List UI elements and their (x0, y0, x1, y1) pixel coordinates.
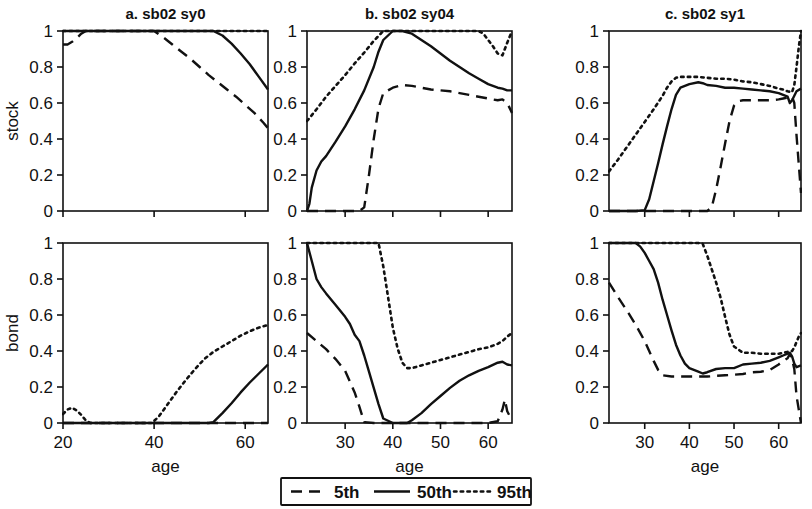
y-tick-label: 0.2 (29, 378, 53, 397)
x-tick-label: 60 (479, 433, 498, 452)
y-tick-label: 0.2 (273, 378, 297, 397)
multi-panel-line-chart: 00.20.40.60.81a. sb02 sy0stock00.20.40.6… (0, 0, 812, 509)
x-tick-label: 30 (635, 433, 654, 452)
y-tick-label: 0 (590, 202, 599, 221)
y-tick-label: 1 (590, 22, 599, 41)
y-tick-label: 0.6 (29, 94, 53, 113)
y-tick-label: 0.4 (29, 130, 53, 149)
y-tick-label: 1 (288, 234, 297, 253)
y-tick-label: 1 (590, 234, 599, 253)
x-tick-label: 40 (145, 433, 164, 452)
x-tick-label: 40 (680, 433, 699, 452)
y-tick-label: 0.8 (575, 58, 599, 77)
y-tick-label: 1 (44, 234, 53, 253)
y-tick-label: 0 (590, 414, 599, 433)
panel-title: a. sb02 sy0 (125, 5, 205, 22)
y-tick-label: 0.8 (273, 58, 297, 77)
x-tick-label: 60 (236, 433, 255, 452)
y-tick-label: 0.6 (273, 94, 297, 113)
y-tick-label: 0.8 (29, 270, 53, 289)
y-tick-label: 0.8 (575, 270, 599, 289)
y-tick-label: 0.6 (575, 306, 599, 325)
legend-label-50th: 50th (417, 483, 452, 502)
y-tick-label: 0.2 (29, 166, 53, 185)
x-tick-label: 50 (725, 433, 744, 452)
y-tick-label: 0.6 (575, 94, 599, 113)
y-axis-title: bond (3, 314, 22, 352)
figure-root: 00.20.40.60.81a. sb02 sy0stock00.20.40.6… (0, 0, 812, 509)
x-axis-title: age (691, 457, 719, 476)
y-tick-label: 0 (44, 202, 53, 221)
y-tick-label: 0.2 (575, 166, 599, 185)
x-axis-title: age (395, 457, 423, 476)
y-tick-label: 0.4 (273, 130, 297, 149)
y-tick-label: 0.4 (29, 342, 53, 361)
x-tick-label: 40 (383, 433, 402, 452)
y-axis-title: stock (3, 101, 22, 141)
y-tick-label: 0.2 (575, 378, 599, 397)
panel-title: b. sb02 sy04 (365, 5, 455, 22)
x-tick-label: 20 (54, 433, 73, 452)
legend-label-5th: 5th (334, 483, 360, 502)
y-tick-label: 0.2 (273, 166, 297, 185)
y-tick-label: 0.4 (273, 342, 297, 361)
y-tick-label: 0 (288, 202, 297, 221)
panel-title: c. sb02 sy1 (665, 5, 745, 22)
y-tick-label: 0.4 (575, 342, 599, 361)
y-tick-label: 0.6 (29, 306, 53, 325)
legend-label-95th: 95th (497, 483, 532, 502)
x-axis-title: age (151, 457, 179, 476)
y-tick-label: 0.6 (273, 306, 297, 325)
y-tick-label: 1 (288, 22, 297, 41)
y-tick-label: 0 (288, 414, 297, 433)
x-tick-label: 60 (769, 433, 788, 452)
y-tick-label: 0.4 (575, 130, 599, 149)
chart-legend: 5th50th95th (281, 478, 532, 505)
y-tick-label: 0.8 (273, 270, 297, 289)
y-tick-label: 0 (44, 414, 53, 433)
y-tick-label: 1 (44, 22, 53, 41)
x-tick-label: 30 (336, 433, 355, 452)
x-tick-label: 50 (431, 433, 450, 452)
y-tick-label: 0.8 (29, 58, 53, 77)
